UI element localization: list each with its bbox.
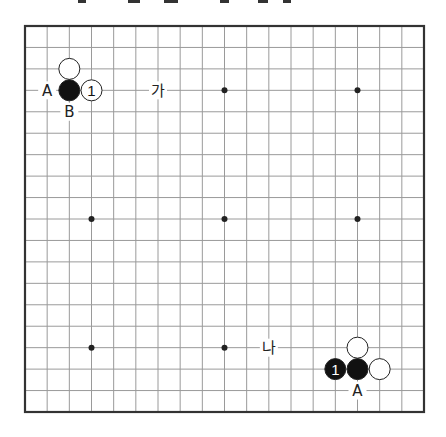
white-stone — [59, 58, 80, 79]
marker-label: A — [352, 382, 363, 400]
white-stone: 1 — [81, 80, 102, 101]
star-point-icon — [222, 216, 228, 222]
star-point-icon — [355, 216, 361, 222]
star-point-icon — [355, 87, 361, 93]
black-stone: 1 — [325, 359, 346, 380]
marker-label: A — [42, 82, 53, 100]
black-stone — [347, 359, 368, 380]
marker-label: 나 — [262, 339, 276, 357]
white-stone — [369, 359, 390, 380]
move-number: 1 — [87, 82, 95, 99]
marker-label: 가 — [151, 82, 165, 100]
white-stone — [347, 337, 368, 358]
move-number: 1 — [331, 361, 339, 378]
star-point-icon — [222, 87, 228, 93]
go-board: AB가나A 11 — [0, 0, 446, 437]
star-point-icon — [89, 216, 95, 222]
black-stone — [59, 80, 80, 101]
star-point-icon — [89, 345, 95, 351]
star-point-icon — [222, 345, 228, 351]
marker-label: B — [64, 103, 74, 121]
